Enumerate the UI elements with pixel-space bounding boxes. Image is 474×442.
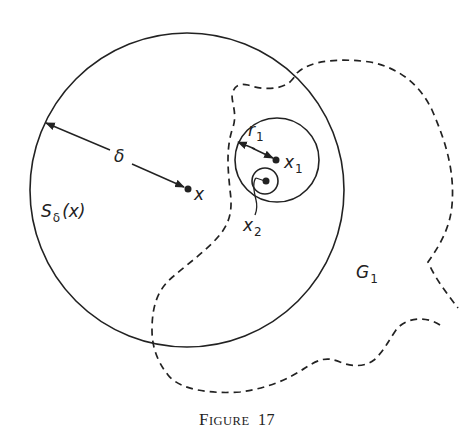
s-argument: (x) xyxy=(62,201,85,221)
label-x2: x2 xyxy=(243,217,262,234)
g-subscript: 1 xyxy=(370,272,378,286)
r1-main: r xyxy=(248,120,255,140)
region-g1-dashed-boundary xyxy=(152,60,458,392)
point-x2 xyxy=(263,178,270,185)
label-s-delta-x: Sδ(x) xyxy=(41,203,85,220)
caption-number: 17 xyxy=(258,411,275,428)
figure-caption: Figure 17 xyxy=(0,410,474,430)
label-x: x xyxy=(194,186,204,203)
x2-main: x xyxy=(243,215,253,235)
s-main: S xyxy=(41,201,52,221)
caption-initial: F xyxy=(199,410,209,429)
label-g1: G1 xyxy=(356,264,378,281)
delta-symbol: δ xyxy=(114,146,124,166)
point-x xyxy=(185,186,192,193)
diagram-canvas xyxy=(0,0,474,442)
x1-subscript: 1 xyxy=(295,162,303,176)
label-x1: x1 xyxy=(284,154,303,171)
label-delta: δ xyxy=(114,148,124,165)
x1-main: x xyxy=(284,152,294,172)
delta-arrow-left xyxy=(46,123,110,150)
x2-subscript: 2 xyxy=(254,225,262,239)
s-subscript: δ xyxy=(53,211,60,225)
caption-smallcaps: igure xyxy=(209,414,250,428)
g-main: G xyxy=(356,262,369,282)
figure-17-diagram: δ x x1 r1 x2 Sδ(x) G1 Figure 17 xyxy=(0,0,474,442)
label-r1: r1 xyxy=(248,122,264,139)
point-x1 xyxy=(273,157,280,164)
r1-subscript: 1 xyxy=(256,130,264,144)
delta-arrow-right xyxy=(132,164,184,187)
r1-arrow-2 xyxy=(252,148,273,158)
x-text: x xyxy=(194,184,204,204)
